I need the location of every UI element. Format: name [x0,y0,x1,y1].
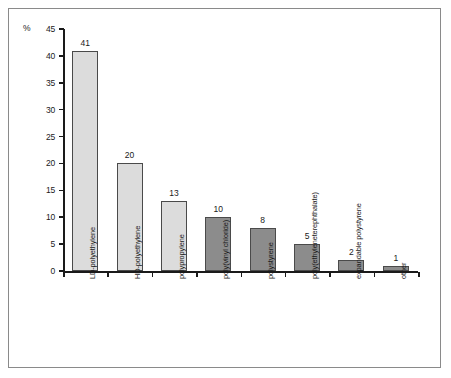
y-axis-tick-label: 15 [25,185,55,195]
x-axis-category-label: poly(vinyl chloride) [221,220,230,279]
y-axis-tick [59,136,64,138]
x-axis-tick [196,272,198,277]
y-axis-tick [59,55,64,57]
y-axis-tick-label: 0 [25,266,55,276]
y-axis-tick-label: 5 [25,239,55,249]
x-axis-tick [418,272,420,277]
x-axis-category-label: poly(ethyleneterephthalate) [310,192,319,279]
y-axis-tick [59,109,64,111]
bar-value-label: 41 [65,38,105,48]
x-axis-tick [107,272,109,277]
x-axis-tick [374,272,376,277]
y-axis-tick-label: 10 [25,212,55,222]
y-axis-tick-label: 25 [25,132,55,142]
y-axis-tick-label: 40 [25,51,55,61]
x-axis-tick [329,272,331,277]
bar-value-label: 13 [154,188,194,198]
x-axis-category-label: LD-polyethylene [88,227,97,279]
y-axis-tick [59,28,64,30]
bar-value-label: 8 [243,215,283,225]
x-axis-category-label: other [399,263,408,279]
bar-value-label: 1 [376,253,416,263]
y-axis-tick [59,216,64,218]
bar-value-label: 2 [331,247,371,257]
y-axis-tick-label: 20 [25,158,55,168]
y-axis-tick-label: 35 [25,78,55,88]
x-axis-tick [63,272,65,277]
y-axis-line [63,29,65,272]
x-axis-category-label: polypropylene [177,234,186,279]
y-axis-tick [59,243,64,245]
bar-chart-plot: % 051015202530354045 412013108521 LD-pol… [9,9,442,369]
x-axis-category-label: expandable polystyrene [354,203,363,279]
bar-value-label: 20 [110,150,150,160]
y-axis-tick-label: 45 [25,24,55,34]
x-axis-tick [152,272,154,277]
y-axis-tick [59,163,64,165]
chart-frame: % 051015202530354045 412013108521 LD-pol… [8,8,441,368]
x-axis-category-label: polystyrene [266,242,275,279]
y-axis-tick [59,190,64,192]
x-axis-tick [241,272,243,277]
bar-value-label: 10 [198,204,238,214]
y-axis-tick-label: 30 [25,105,55,115]
x-axis-tick [285,272,287,277]
x-axis-category-label: HD-polyethylene [133,226,142,279]
y-axis-tick [59,82,64,84]
bar-value-label: 5 [287,231,327,241]
